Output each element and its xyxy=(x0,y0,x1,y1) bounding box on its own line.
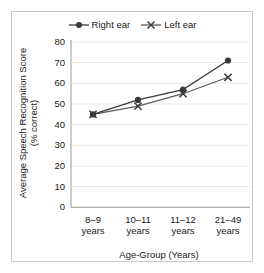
y-axis-title: Average Speech Recognition Score (% corr… xyxy=(17,33,39,213)
y-tick-label: 80 xyxy=(41,37,65,47)
y-tick-label: 40 xyxy=(41,120,65,130)
x-tick-label-group-2: 10–11 years xyxy=(115,214,161,236)
plot-area: 80 70 60 50 40 30 20 10 0 8–9 years 10–1… xyxy=(0,0,264,273)
y-axis-title-line1: Average Speech Recognition Score xyxy=(17,33,28,213)
x-tick-label-group-3: 11–12 years xyxy=(160,214,206,236)
x-tick-line1: 11–12 xyxy=(160,214,206,225)
x-tick-line2: years xyxy=(205,225,251,236)
x-tick-label-group-1: 8–9 years xyxy=(70,214,116,236)
y-tick-label: 70 xyxy=(41,58,65,68)
series-right-ear xyxy=(90,57,231,117)
y-tick-label: 60 xyxy=(41,78,65,88)
x-tick-label-group-4: 21–49 years xyxy=(205,214,251,236)
x-tick-line1: 8–9 xyxy=(70,214,116,225)
y-tick-label: 30 xyxy=(41,140,65,150)
x-tick-line2: years xyxy=(115,225,161,236)
y-tick-label: 20 xyxy=(41,161,65,171)
x-tick-line1: 21–49 xyxy=(205,214,251,225)
y-tick-label: 10 xyxy=(41,182,65,192)
y-axis-title-line2: (% correct) xyxy=(28,33,39,213)
y-tick-label: 0 xyxy=(41,202,65,212)
series-left-ear xyxy=(89,74,231,118)
x-tick-line2: years xyxy=(70,225,116,236)
chart-figure: Right ear Left ear xyxy=(0,0,264,273)
x-tick-line2: years xyxy=(160,225,206,236)
x-axis-title: Age-Group (Years) xyxy=(66,249,252,260)
x-tick-line1: 10–11 xyxy=(115,214,161,225)
y-tick-label: 50 xyxy=(41,99,65,109)
